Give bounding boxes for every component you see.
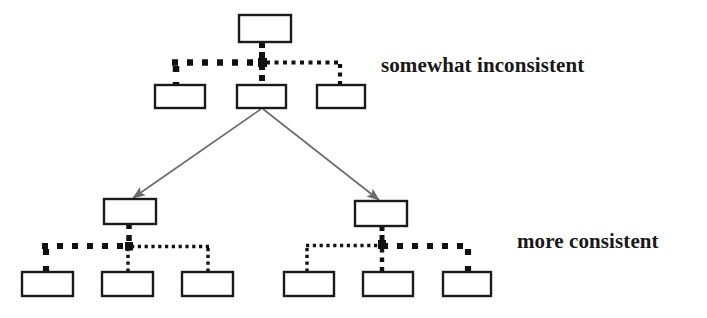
level3-right-parent-node[interactable] <box>355 201 407 226</box>
level2-right-node[interactable] <box>317 85 365 108</box>
level2-left-node[interactable] <box>155 85 205 108</box>
annotation-somewhat-inconsistent: somewhat inconsistent <box>381 53 584 78</box>
root-node[interactable] <box>239 15 291 42</box>
arrow-to-right-subtree <box>263 109 379 200</box>
leaf-node-6[interactable] <box>443 272 491 296</box>
leaf-node-2[interactable] <box>102 272 153 296</box>
leaf-node-1[interactable] <box>22 272 73 296</box>
leaf-node-3[interactable] <box>182 272 233 296</box>
level3-left-parent-node[interactable] <box>104 199 156 224</box>
arrow-group <box>133 109 379 200</box>
annotation-more-consistent: more consistent <box>517 229 659 254</box>
connector-group-left-subtree <box>42 223 209 272</box>
level2-middle-node[interactable] <box>237 85 286 108</box>
connector-group-level2 <box>172 41 340 85</box>
diagram-canvas: somewhat inconsistent more consistent <box>0 0 707 318</box>
connector-group-right-subtree <box>306 226 470 272</box>
arrow-to-left-subtree <box>133 109 261 198</box>
connector-junction-right-subtree <box>378 240 386 249</box>
leaf-node-4[interactable] <box>284 272 334 296</box>
leaf-node-5[interactable] <box>363 272 413 296</box>
tree-diagram-graphic <box>0 0 707 318</box>
